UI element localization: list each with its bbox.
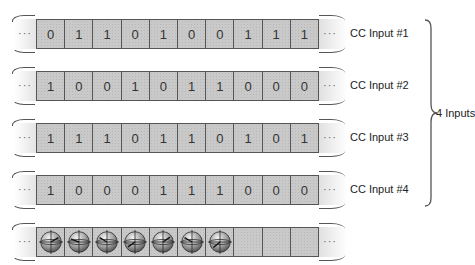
- tape-left-end: ···: [14, 71, 36, 101]
- bit-cell: 0: [92, 72, 120, 100]
- ellipsis-right: ···: [323, 131, 337, 143]
- bit-cell: 0: [36, 20, 64, 48]
- bit-cell: 1: [205, 176, 233, 204]
- ellipsis-left: ···: [18, 235, 32, 247]
- tape-cells: 1 0 0 0 1 1 1 0 0 0: [36, 175, 319, 205]
- ellipsis-right: ···: [323, 235, 337, 247]
- bit-cell: 1: [92, 124, 120, 152]
- bit-cell: 0: [64, 176, 92, 204]
- bit-cell: 1: [177, 72, 205, 100]
- ellipsis-right: ···: [323, 183, 337, 195]
- bit-cell: 0: [121, 20, 149, 48]
- bit-cell: 1: [149, 124, 177, 152]
- qubit-cell: [177, 228, 205, 256]
- bit-cell: 1: [36, 72, 64, 100]
- bit-cell: 0: [233, 72, 261, 100]
- bit-cell: 0: [177, 20, 205, 48]
- tape-right-end: ···: [319, 175, 347, 205]
- tape-left-end: ···: [14, 227, 36, 257]
- group-label: 4 Inputs: [436, 107, 475, 119]
- bit-cell: 1: [177, 176, 205, 204]
- empty-cell: [262, 228, 290, 256]
- qubit-cell: [149, 228, 177, 256]
- cc-input-tape-2: ··· 1 0 0 1 0 1 1 0 0 0 ···: [14, 71, 346, 101]
- bit-cell: 1: [205, 72, 233, 100]
- tape-left-end: ···: [14, 175, 36, 205]
- ellipsis-right: ···: [323, 79, 337, 91]
- bit-cell: 1: [121, 72, 149, 100]
- bit-cell: 1: [233, 20, 261, 48]
- bit-cell: 1: [64, 20, 92, 48]
- tape-label-2: CC Input #2: [350, 79, 409, 91]
- bit-cell: 0: [121, 176, 149, 204]
- qubit-cell: [205, 228, 233, 256]
- bit-cell: 0: [262, 176, 290, 204]
- cc-input-tape-4: ··· 1 0 0 0 1 1 1 0 0 0 ···: [14, 175, 346, 205]
- tape-right-end: ···: [319, 71, 347, 101]
- bit-cell: 1: [290, 124, 319, 152]
- ellipsis-right: ···: [323, 27, 337, 39]
- bloch-sphere-icon: [123, 230, 147, 254]
- bit-cell: 1: [149, 176, 177, 204]
- qubit-tape: ··· ···: [14, 227, 346, 257]
- bit-cell: 1: [64, 124, 92, 152]
- bloch-sphere-icon: [151, 230, 175, 254]
- tape-left-end: ···: [14, 123, 36, 153]
- empty-cell: [290, 228, 319, 256]
- tape-cells: 1 1 1 0 1 1 0 1 0 1: [36, 123, 319, 153]
- tape-right-end: ···: [319, 123, 347, 153]
- tape-cells: [36, 227, 319, 257]
- tape-left-end: ···: [14, 19, 36, 49]
- bit-cell: 1: [92, 20, 120, 48]
- bit-cell: 0: [205, 20, 233, 48]
- tape-label-3: CC Input #3: [350, 131, 409, 143]
- tape-right-end: ···: [319, 19, 347, 49]
- bloch-sphere-icon: [95, 230, 119, 254]
- bit-cell: 0: [64, 72, 92, 100]
- bloch-sphere-icon: [208, 230, 232, 254]
- bit-cell: 0: [262, 124, 290, 152]
- bit-cell: 1: [149, 20, 177, 48]
- bloch-sphere-icon: [39, 230, 63, 254]
- qubit-cell: [92, 228, 120, 256]
- bit-cell: 1: [36, 124, 64, 152]
- bit-cell: 0: [233, 176, 261, 204]
- tape-label-1: CC Input #1: [350, 27, 409, 39]
- ellipsis-left: ···: [18, 131, 32, 143]
- bit-cell: 1: [233, 124, 261, 152]
- bit-cell: 0: [290, 72, 319, 100]
- bit-cell: 0: [262, 72, 290, 100]
- tape-label-4: CC Input #4: [350, 183, 409, 195]
- qubit-cell: [121, 228, 149, 256]
- tape-right-end: ···: [319, 227, 347, 257]
- tape-cells: 1 0 0 1 0 1 1 0 0 0: [36, 71, 319, 101]
- bit-cell: 1: [262, 20, 290, 48]
- ellipsis-left: ···: [18, 183, 32, 195]
- bit-cell: 0: [149, 72, 177, 100]
- bit-cell: 1: [177, 124, 205, 152]
- cc-input-tape-1: ··· 0 1 1 0 1 0 0 1 1 1 ···: [14, 19, 346, 49]
- bloch-sphere-icon: [67, 230, 91, 254]
- bit-cell: 1: [290, 20, 319, 48]
- qubit-cell: [36, 228, 64, 256]
- empty-cell: [233, 228, 261, 256]
- tape-cells: 0 1 1 0 1 0 0 1 1 1: [36, 19, 319, 49]
- qubit-cell: [64, 228, 92, 256]
- bit-cell: 0: [205, 124, 233, 152]
- bit-cell: 0: [121, 124, 149, 152]
- cc-input-tape-3: ··· 1 1 1 0 1 1 0 1 0 1 ···: [14, 123, 346, 153]
- bit-cell: 0: [92, 176, 120, 204]
- ellipsis-left: ···: [18, 27, 32, 39]
- ellipsis-left: ···: [18, 79, 32, 91]
- bit-cell: 1: [36, 176, 64, 204]
- bloch-sphere-icon: [180, 230, 204, 254]
- bit-cell: 0: [290, 176, 319, 204]
